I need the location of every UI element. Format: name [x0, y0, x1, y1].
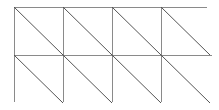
cell-diagonal-line-6	[112, 55, 161, 103]
cell-diagonal-line-7	[161, 55, 210, 103]
cell-diagonal-line-4	[14, 55, 63, 103]
grid-svg	[0, 0, 219, 110]
cell-diagonal-line-2	[112, 7, 161, 55]
vertical-lines-group	[15, 7, 162, 102]
cell-diagonal-line-5	[63, 55, 112, 103]
cell-diagonal-line-0	[14, 7, 63, 55]
grid-diagram-canvas	[0, 0, 219, 110]
cell-diagonal-line-1	[63, 7, 112, 55]
cell-diagonal-line-3	[161, 7, 210, 55]
